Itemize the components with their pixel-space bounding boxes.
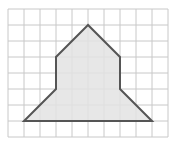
grid-diagram — [0, 0, 176, 145]
